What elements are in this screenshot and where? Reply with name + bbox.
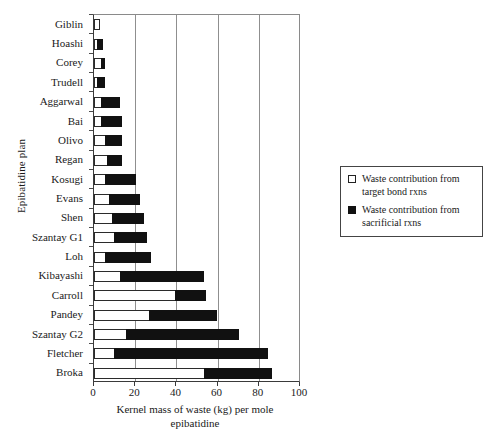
bar-segment-target-bond — [94, 368, 205, 379]
table-row — [94, 213, 299, 224]
stacked-bar — [94, 213, 144, 224]
y-axis-tick-label: Kibayashi — [38, 269, 83, 281]
stacked-bar — [94, 155, 122, 166]
y-axis-tick-label: Evans — [56, 192, 83, 204]
stacked-bar — [94, 97, 120, 108]
y-axis-tick-label: Carroll — [52, 289, 83, 301]
stacked-bar — [94, 252, 151, 263]
table-row — [94, 97, 299, 108]
y-axis-tick-label: Pandey — [51, 308, 83, 320]
bar-segment-sacrificial — [105, 135, 121, 146]
bar-segment-sacrificial — [107, 155, 121, 166]
bar-segment-sacrificial — [126, 329, 239, 340]
x-axis-title-line1: Kernel mass of waste (kg) per mole — [40, 402, 350, 416]
legend-item-target-bond: Waste contribution from target bond rxns — [348, 173, 475, 198]
bar-segment-sacrificial — [97, 39, 103, 50]
table-row — [94, 174, 299, 185]
x-axis-tick-label: 100 — [291, 386, 308, 398]
open-square-icon — [348, 175, 356, 183]
legend-label-sacrificial: Waste contribution from sacrificial rxns — [362, 204, 475, 229]
y-axis-tick-label: Regan — [55, 153, 83, 165]
bar-segment-target-bond — [94, 271, 121, 282]
y-axis-tick-label: Szantay G1 — [32, 231, 83, 243]
table-row — [94, 135, 299, 146]
stacked-bar — [94, 232, 147, 243]
table-row — [94, 77, 299, 88]
bar-segment-target-bond — [94, 213, 113, 224]
x-axis-tick-label: 0 — [90, 386, 96, 398]
bar-segment-target-bond — [94, 155, 108, 166]
y-axis-tick-label: Trudell — [51, 76, 83, 88]
stacked-bar — [94, 77, 105, 88]
table-row — [94, 252, 299, 263]
plot-area — [93, 14, 300, 382]
stacked-bar — [94, 329, 239, 340]
bar-segment-target-bond — [94, 329, 127, 340]
bar-segment-sacrificial — [175, 290, 206, 301]
bar-rows — [94, 15, 299, 381]
stacked-bar — [94, 368, 272, 379]
stacked-bar — [94, 135, 122, 146]
bar-segment-sacrificial — [101, 58, 105, 69]
table-row — [94, 194, 299, 205]
bar-segment-sacrificial — [114, 232, 147, 243]
table-row — [94, 329, 299, 340]
y-axis-labels: GiblinHoashiCoreyTrudellAggarwalBaiOlivo… — [0, 14, 89, 382]
x-axis-title-line2: epibatidine — [40, 416, 350, 430]
bar-segment-target-bond — [94, 232, 115, 243]
stacked-bar — [94, 116, 122, 127]
x-axis-tick-label: 60 — [211, 386, 222, 398]
y-axis-tick-label: Hoashi — [52, 37, 83, 49]
y-axis-tick-label: Giblin — [55, 18, 83, 30]
bar-segment-sacrificial — [97, 77, 105, 88]
bar-segment-target-bond — [94, 310, 150, 321]
table-row — [94, 232, 299, 243]
y-axis-tick-label: Szantay G2 — [32, 328, 83, 340]
table-row — [94, 271, 299, 282]
legend: Waste contribution from target bond rxns… — [340, 166, 483, 237]
stacked-bar — [94, 310, 217, 321]
bar-segment-sacrificial — [105, 174, 136, 185]
bar-segment-sacrificial — [120, 271, 204, 282]
x-axis-tick-label: 80 — [252, 386, 263, 398]
bar-segment-target-bond — [94, 348, 115, 359]
bar-segment-target-bond — [94, 19, 100, 30]
table-row — [94, 39, 299, 50]
bar-segment-sacrificial — [112, 213, 145, 224]
y-axis-tick-label: Bai — [68, 115, 83, 127]
chart-figure: Epibatidine plan GiblinHoashiCoreyTrudel… — [0, 0, 491, 444]
legend-label-target-bond: Waste contribution from target bond rxns — [362, 173, 475, 198]
stacked-bar — [94, 39, 103, 50]
table-row — [94, 155, 299, 166]
stacked-bar — [94, 290, 206, 301]
y-axis-tick-label: Kosugi — [51, 173, 83, 185]
bar-segment-target-bond — [94, 290, 176, 301]
table-row — [94, 19, 299, 30]
bar-segment-target-bond — [94, 194, 110, 205]
stacked-bar — [94, 58, 105, 69]
y-axis-tick-label: Broka — [56, 366, 83, 378]
bar-segment-sacrificial — [114, 348, 269, 359]
stacked-bar — [94, 19, 100, 30]
y-axis-tick-label: Aggarwal — [40, 95, 83, 107]
legend-item-sacrificial: Waste contribution from sacrificial rxns — [348, 204, 475, 229]
stacked-bar — [94, 194, 140, 205]
bar-segment-sacrificial — [105, 252, 150, 263]
table-row — [94, 368, 299, 379]
bar-segment-sacrificial — [204, 368, 272, 379]
y-axis-tick-label: Shen — [61, 211, 83, 223]
x-axis-tick-label: 20 — [129, 386, 140, 398]
stacked-bar — [94, 348, 268, 359]
bar-segment-sacrificial — [101, 116, 122, 127]
x-axis-tick-label: 40 — [170, 386, 181, 398]
table-row — [94, 348, 299, 359]
table-row — [94, 310, 299, 321]
bar-segment-sacrificial — [149, 310, 217, 321]
stacked-bar — [94, 174, 136, 185]
table-row — [94, 116, 299, 127]
y-axis-tick-label: Fletcher — [47, 347, 83, 359]
table-row — [94, 290, 299, 301]
bar-segment-sacrificial — [109, 194, 140, 205]
y-axis-tick-label: Corey — [56, 56, 83, 68]
x-axis-title: Kernel mass of waste (kg) per mole epiba… — [40, 402, 350, 430]
